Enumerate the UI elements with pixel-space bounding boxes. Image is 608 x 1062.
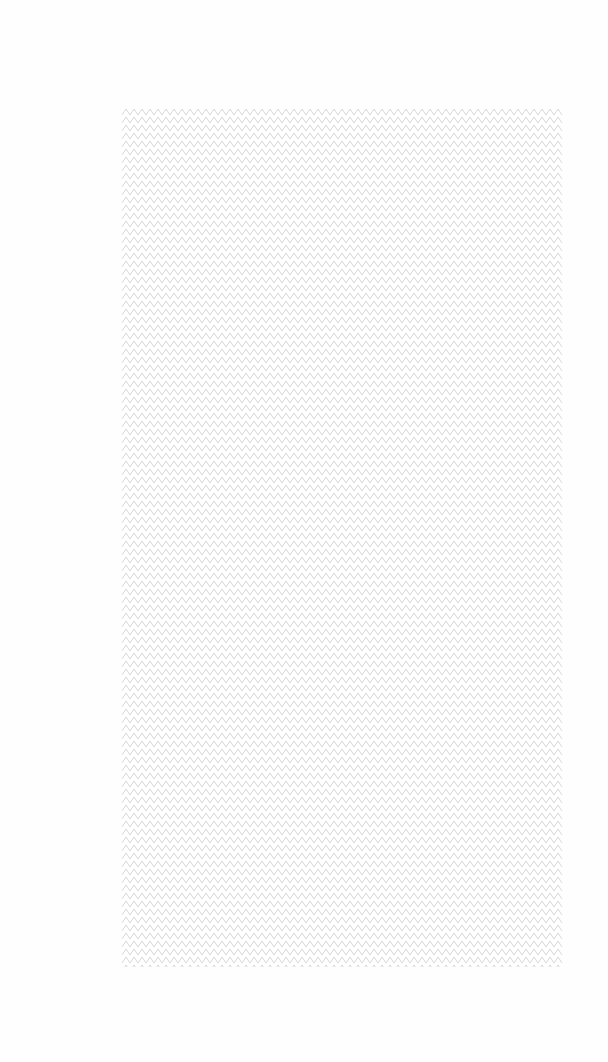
page-canvas	[0, 0, 608, 1062]
pattern-placeholder-panel	[122, 108, 562, 967]
